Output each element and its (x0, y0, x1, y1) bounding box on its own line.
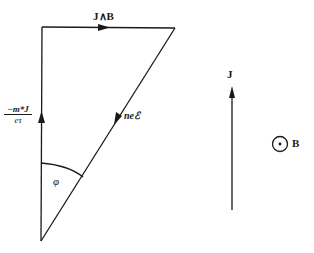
label-field-b: B (292, 137, 299, 149)
label-drag-numerator: −m*J (4, 104, 32, 115)
angle-arc (41, 163, 83, 177)
diagonal-vector-line (41, 28, 175, 241)
top-vector-arrowhead-icon (98, 24, 110, 31)
label-ne-e: neℰ (124, 110, 140, 121)
label-drag-term: −m*J eτ (4, 104, 32, 125)
j-vector-arrowhead-icon (229, 86, 235, 98)
left-vector-line (41, 27, 42, 241)
label-j-cross-b: J∧B (93, 10, 114, 23)
hall-effect-diagram (0, 0, 314, 253)
label-angle-phi: φ (53, 175, 59, 187)
label-current-j: J (227, 68, 233, 80)
left-vector-arrowhead-icon (38, 111, 45, 123)
b-field-dot-icon (279, 143, 282, 146)
label-drag-denominator: eτ (4, 115, 32, 125)
